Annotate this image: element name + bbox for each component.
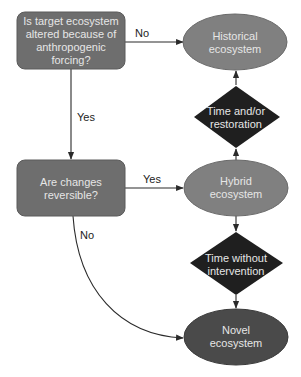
node-time-without-intervention: Time without intervention [190,232,283,295]
edge-label-yes-horizontal: Yes [143,173,161,185]
edge-label-no-curve: No [80,229,94,241]
node-text-line: Time without [205,252,267,264]
node-text-line: Novel [222,324,250,336]
node-hybrid-ecosystem: Hybrid ecosystem [184,160,288,216]
node-text-line: restoration [210,118,262,130]
node-novel-ecosystem: Novel ecosystem [184,309,288,365]
node-text-line: Hybrid [220,175,252,187]
node-text-line: ecosystem [210,188,263,200]
process-diamond [194,86,280,148]
node-question-reversible: Are changes reversible? [17,160,125,216]
node-text-line: Are changes [40,176,102,188]
node-question-altered: Is target ecosystem altered because of a… [17,12,125,69]
node-text-line: ecosystem [209,43,262,55]
node-text-line: Is target ecosystem [23,15,118,27]
node-text-line: anthropogenic [36,41,106,53]
ecosystem-decision-flowchart: No Yes Yes No Is target ecosystem altere… [0,0,301,377]
node-text-line: reversible? [44,189,98,201]
node-text-line: altered because of [26,28,117,40]
decision-box [17,160,125,216]
node-historical-ecosystem: Historical ecosystem [183,14,287,70]
node-text-line: forcing? [51,54,90,66]
node-text-line: intervention [208,265,265,277]
edge-label-yes-vertical: Yes [77,111,95,123]
node-text-line: Time and/or [207,105,266,117]
edge-label-no-top: No [135,27,149,39]
node-text-line: Historical [212,30,257,42]
node-text-line: ecosystem [210,337,263,349]
node-time-restoration: Time and/or restoration [194,86,280,148]
state-ellipse [183,14,287,70]
